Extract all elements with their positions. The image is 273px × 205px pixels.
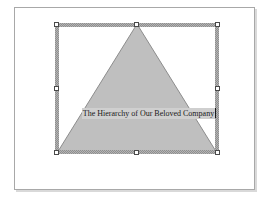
resize-handle-bottom-right[interactable] [215,150,220,155]
shape-text-label[interactable]: The Hierarchy of Our Beloved Company [82,108,215,119]
resize-handle-bottom-center[interactable] [134,150,139,155]
resize-handle-top-right[interactable] [215,22,220,27]
resize-handle-bottom-left[interactable] [54,150,59,155]
slide-page[interactable]: The Hierarchy of Our Beloved Company [14,7,255,190]
editor-canvas[interactable]: The Hierarchy of Our Beloved Company [0,0,273,205]
shape-text-editor[interactable]: The Hierarchy of Our Beloved Company [78,107,220,119]
resize-handle-middle-right[interactable] [215,86,220,91]
resize-handle-top-center[interactable] [134,22,139,27]
text-caret [215,108,216,118]
resize-handle-middle-left[interactable] [54,86,59,91]
resize-handle-top-left[interactable] [54,22,59,27]
selection-frame[interactable] [55,23,219,154]
